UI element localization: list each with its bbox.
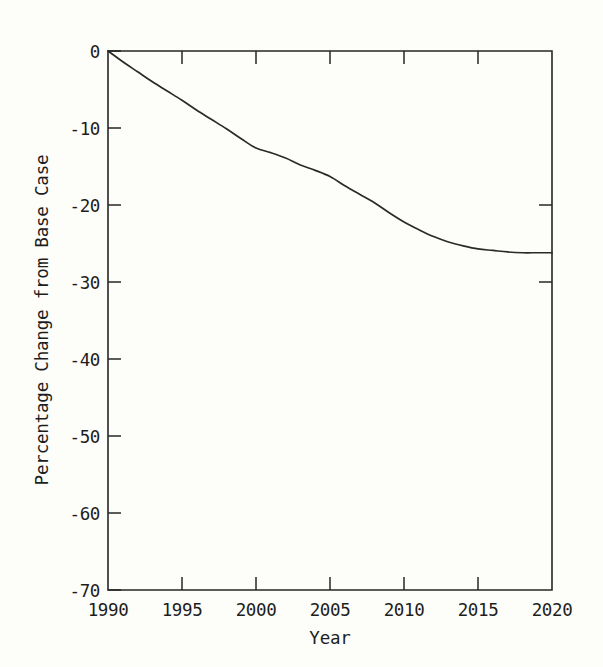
x-axis-title: Year bbox=[309, 628, 350, 648]
x-tick-label-2005: 2005 bbox=[310, 600, 351, 620]
x-tick-label-1995: 1995 bbox=[162, 600, 203, 620]
y-axis-ticks-right bbox=[539, 205, 552, 282]
y-tick-label-minus30: -30 bbox=[70, 273, 100, 293]
y-axis-ticks bbox=[108, 51, 121, 590]
x-tick-label-2010: 2010 bbox=[384, 600, 425, 620]
y-tick-label-minus40: -40 bbox=[70, 350, 100, 370]
y-tick-label-minus70: -70 bbox=[70, 581, 100, 601]
y-tick-label-minus60: -60 bbox=[70, 504, 100, 524]
data-series-line bbox=[108, 51, 552, 253]
x-tick-label-2015: 2015 bbox=[458, 600, 499, 620]
y-tick-label-0: 0 bbox=[90, 42, 100, 62]
x-tick-labels: 1990 1995 2000 2005 2010 2015 2020 bbox=[88, 600, 573, 620]
x-axis-ticks bbox=[182, 577, 478, 590]
y-tick-labels: 0 -10 -20 -30 -40 -50 -60 -70 bbox=[70, 42, 100, 601]
x-tick-label-2000: 2000 bbox=[236, 600, 277, 620]
y-tick-label-minus20: -20 bbox=[70, 196, 100, 216]
x-tick-label-1990: 1990 bbox=[88, 600, 129, 620]
plot-frame bbox=[108, 51, 552, 590]
line-chart: 0 -10 -20 -30 -40 -50 -60 -70 1990 1995 … bbox=[0, 0, 603, 667]
y-tick-label-minus10: -10 bbox=[70, 119, 100, 139]
x-tick-label-2020: 2020 bbox=[532, 600, 573, 620]
y-axis-title: Percentage Change from Base Case bbox=[32, 155, 52, 486]
axis-box bbox=[108, 51, 552, 590]
y-tick-label-minus50: -50 bbox=[70, 427, 100, 447]
chart-page: 0 -10 -20 -30 -40 -50 -60 -70 1990 1995 … bbox=[0, 0, 603, 667]
x-axis-ticks-top bbox=[182, 51, 478, 64]
